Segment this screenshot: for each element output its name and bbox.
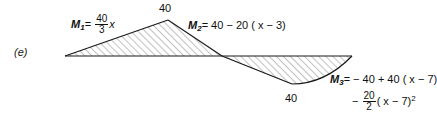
equation-m3-denominator: 2 xyxy=(363,102,376,113)
equation-m3-exponent: 2 xyxy=(411,94,415,103)
equation-m1-denominator: 3 xyxy=(95,25,108,36)
equation-m3-minus: − xyxy=(352,95,358,107)
equation-m3-body: = − 40 + 40 ( x − 7) xyxy=(344,73,437,85)
equation-m1: M1= 40 3 x xyxy=(71,14,115,36)
equation-m2-symbol: M xyxy=(188,19,197,31)
min-value-label: 40 xyxy=(285,92,297,104)
equation-m1-equals: = xyxy=(85,18,91,30)
equation-m1-symbol: M xyxy=(71,18,80,30)
equation-m3-tail: ( x − 7) xyxy=(377,95,412,107)
peak-value-label: 40 xyxy=(159,2,171,14)
figure-part-label: (e) xyxy=(14,46,27,58)
equation-m3-line2: − 20 2 ( x − 7)2 xyxy=(352,91,416,113)
equation-m2-body: = 40 − 20 ( x − 3) xyxy=(202,19,286,31)
equation-m3-line1: M3= − 40 + 40 ( x − 7) xyxy=(330,74,437,87)
equation-m1-fraction: 40 3 xyxy=(95,14,108,36)
equation-m3-fraction: 20 2 xyxy=(363,91,376,113)
equation-m1-variable: x xyxy=(109,18,115,30)
equation-m2: M2= 40 − 20 ( x − 3) xyxy=(188,20,286,33)
equation-m3-symbol: M xyxy=(330,73,339,85)
